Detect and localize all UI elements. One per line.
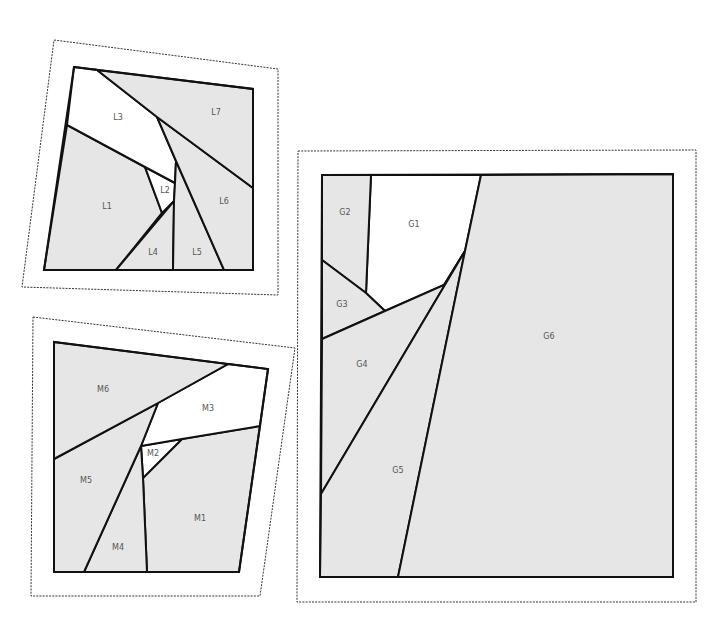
piece-label: M5 bbox=[80, 476, 92, 485]
pattern-diagram: L1L2L3L4L5L6L7M1M2M3M4M5M6G1G2G3G4G5G6 bbox=[0, 0, 713, 642]
piece-label: M6 bbox=[97, 385, 109, 394]
piece-label: L1 bbox=[102, 202, 112, 211]
piece-label: L5 bbox=[192, 248, 202, 257]
piece-label: M3 bbox=[202, 404, 214, 413]
block-g: G1G2G3G4G5G6 bbox=[297, 150, 696, 602]
piece-label: L4 bbox=[148, 248, 158, 257]
piece-label: G1 bbox=[408, 220, 419, 229]
piece-label: L2 bbox=[160, 186, 170, 195]
piece-label: G2 bbox=[339, 208, 350, 217]
piece-label: M2 bbox=[147, 449, 159, 458]
piece-label: L7 bbox=[211, 108, 221, 117]
piece-label: G4 bbox=[356, 360, 367, 369]
piece-label: L3 bbox=[113, 113, 123, 122]
block-l: L1L2L3L4L5L6L7 bbox=[22, 40, 278, 295]
piece-label: G5 bbox=[392, 466, 403, 475]
piece-label: G3 bbox=[336, 300, 347, 309]
piece-label: L6 bbox=[219, 197, 229, 206]
piece-label: M1 bbox=[194, 514, 206, 523]
piece-label: M4 bbox=[112, 543, 124, 552]
piece-label: G6 bbox=[543, 332, 554, 341]
block-m: M1M2M3M4M5M6 bbox=[31, 317, 295, 596]
